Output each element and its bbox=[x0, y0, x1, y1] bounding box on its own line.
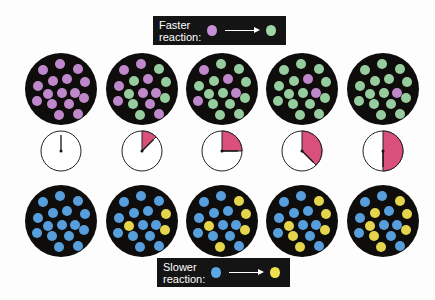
yellow-molecule-icon bbox=[124, 221, 134, 231]
green-molecule-icon bbox=[234, 64, 244, 74]
green-molecule-icon bbox=[274, 81, 284, 91]
yellow-molecule-icon bbox=[370, 208, 380, 218]
blue-molecule-icon bbox=[43, 221, 53, 231]
green-molecule-icon bbox=[295, 110, 305, 120]
yellow-molecule-icon bbox=[401, 225, 411, 235]
blue-molecule-icon bbox=[64, 231, 74, 241]
green-molecule-icon bbox=[273, 96, 283, 106]
purple-molecule-icon bbox=[113, 96, 123, 106]
green-molecule-icon bbox=[376, 110, 386, 120]
clock-center-icon bbox=[221, 150, 224, 153]
green-molecule-icon bbox=[379, 88, 389, 98]
purple-molecule-icon bbox=[138, 88, 148, 98]
green-molecule-icon bbox=[204, 89, 214, 99]
purple-molecule-icon bbox=[62, 74, 72, 84]
blue-molecule-icon bbox=[360, 197, 370, 207]
green-molecule-icon bbox=[216, 59, 226, 69]
blue-molecule-icon bbox=[47, 231, 57, 241]
blue-molecule-icon bbox=[392, 220, 402, 230]
yellow-molecule-icon bbox=[284, 221, 294, 231]
green-molecule-icon bbox=[354, 96, 364, 106]
purple-molecule-icon bbox=[114, 81, 124, 91]
green-molecule-icon bbox=[296, 59, 306, 69]
blue-molecule-icon bbox=[57, 220, 67, 230]
green-molecule-icon bbox=[305, 99, 315, 109]
purple-molecule-icon bbox=[231, 88, 241, 98]
green-molecule-icon bbox=[240, 93, 250, 103]
green-molecule-icon bbox=[161, 77, 171, 87]
blue-molecule-icon bbox=[32, 228, 42, 238]
green-molecule-icon bbox=[288, 99, 298, 109]
blue-molecule-icon bbox=[305, 231, 315, 241]
yellow-molecule-icon bbox=[288, 231, 298, 241]
blue-molecule-icon bbox=[54, 242, 64, 252]
blue-molecule-icon bbox=[143, 206, 153, 216]
green-molecule-icon bbox=[386, 99, 396, 109]
yellow-molecule-icon bbox=[240, 225, 250, 235]
yellow-molecule-icon bbox=[161, 209, 171, 219]
green-molecule-icon bbox=[395, 109, 405, 119]
blue-molecule-icon bbox=[79, 225, 89, 235]
purple-molecule-icon bbox=[392, 88, 402, 98]
yellow-molecule-icon bbox=[402, 209, 412, 219]
green-molecule-icon bbox=[320, 93, 330, 103]
green-molecule-icon bbox=[215, 110, 225, 120]
purple-molecule-icon bbox=[119, 65, 129, 75]
yellow-molecule-icon bbox=[241, 209, 251, 219]
purple-molecule-icon bbox=[193, 96, 203, 106]
green-molecule-icon bbox=[360, 65, 370, 75]
green-molecule-icon bbox=[225, 99, 235, 109]
clock-center-icon bbox=[301, 150, 304, 153]
green-molecule-icon bbox=[377, 59, 387, 69]
yellow-molecule-icon bbox=[160, 225, 170, 235]
blue-molecule-icon bbox=[209, 208, 219, 218]
blue-molecule-icon bbox=[199, 197, 209, 207]
blue-molecule-icon bbox=[386, 231, 396, 241]
yellow-molecule-icon bbox=[376, 242, 386, 252]
blue-molecule-icon bbox=[303, 206, 313, 216]
blue-molecule-icon bbox=[73, 196, 83, 206]
reaction-rate-diagram bbox=[0, 0, 435, 300]
yellow-molecule-icon bbox=[234, 196, 244, 206]
purple-molecule-icon bbox=[151, 88, 161, 98]
green-molecule-icon bbox=[321, 77, 331, 87]
green-molecule-icon bbox=[194, 81, 204, 91]
green-molecule-icon bbox=[284, 89, 294, 99]
green-molecule-icon bbox=[298, 88, 308, 98]
yellow-molecule-icon bbox=[369, 231, 379, 241]
blue-molecule-icon bbox=[128, 231, 138, 241]
purple-molecule-icon bbox=[54, 110, 64, 120]
blue-molecule-icon bbox=[154, 241, 164, 251]
blue-molecule-icon bbox=[135, 242, 145, 252]
purple-molecule-icon bbox=[38, 65, 48, 75]
blue-molecule-icon bbox=[138, 220, 148, 230]
purple-molecule-icon bbox=[33, 81, 43, 91]
blue-molecule-icon bbox=[279, 197, 289, 207]
purple-molecule-icon bbox=[154, 109, 164, 119]
blue-molecule-icon bbox=[55, 191, 65, 201]
blue-molecule-icon bbox=[218, 220, 228, 230]
green-molecule-icon bbox=[129, 76, 139, 86]
blue-molecule-icon bbox=[234, 241, 244, 251]
green-molecule-icon bbox=[289, 76, 299, 86]
yellow-molecule-icon bbox=[204, 221, 214, 231]
yellow-molecule-icon bbox=[314, 196, 324, 206]
blue-molecule-icon bbox=[145, 231, 155, 241]
green-molecule-icon bbox=[369, 99, 379, 109]
green-molecule-icon bbox=[160, 93, 170, 103]
purple-molecule-icon bbox=[55, 59, 65, 69]
blue-molecule-icon bbox=[151, 220, 161, 230]
purple-molecule-icon bbox=[32, 96, 42, 106]
blue-molecule-icon bbox=[113, 228, 123, 238]
blue-molecule-icon bbox=[377, 191, 387, 201]
clock-center-icon bbox=[141, 150, 144, 153]
green-molecule-icon bbox=[209, 76, 219, 86]
blue-molecule-icon bbox=[193, 228, 203, 238]
purple-molecule-icon bbox=[145, 99, 155, 109]
blue-molecule-icon bbox=[62, 206, 72, 216]
blue-molecule-icon bbox=[354, 228, 364, 238]
blue-molecule-icon bbox=[384, 206, 394, 216]
blue-molecule-icon bbox=[311, 220, 321, 230]
blue-molecule-icon bbox=[225, 231, 235, 241]
blue-molecule-icon bbox=[296, 191, 306, 201]
